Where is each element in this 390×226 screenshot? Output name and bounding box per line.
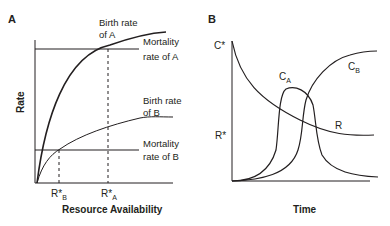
- svg-text:of A: of A: [99, 29, 116, 40]
- panel-a-x-label: Resource Availability: [62, 204, 163, 215]
- svg-text:of B: of B: [143, 107, 160, 118]
- tick-rb: R*B: [51, 188, 67, 201]
- tick-r-star: R*: [215, 130, 226, 141]
- svg-text:rate of A: rate of A: [143, 51, 179, 62]
- birth-a-label: Birth rate: [99, 17, 138, 28]
- r-label: R: [335, 120, 342, 131]
- panel-a-y-label: Rate: [15, 91, 26, 113]
- ca-label: CA: [279, 71, 291, 84]
- figure: A Birth rate of A Mortality rate of A Bi…: [0, 0, 390, 226]
- tick-ra: R*A: [101, 188, 117, 201]
- mortality-b-label: Mortality: [143, 138, 179, 149]
- panel-b-x-label: Time: [293, 204, 317, 215]
- panel-a: A Birth rate of A Mortality rate of A Bi…: [8, 13, 182, 215]
- panel-b: B C* R* CA CB R Time: [208, 13, 378, 215]
- svg-text:rate of B: rate of B: [143, 151, 179, 162]
- panel-b-letter: B: [208, 13, 216, 25]
- mortality-a-label: Mortality: [143, 36, 179, 47]
- birth-b-label: Birth rate: [143, 95, 182, 106]
- tick-c-star: C*: [214, 40, 225, 51]
- panel-a-letter: A: [8, 13, 16, 25]
- cb-label: CB: [348, 61, 360, 74]
